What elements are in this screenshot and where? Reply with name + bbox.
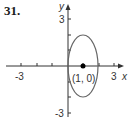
ellipse-graph: -3 3 x y 3 -3 (1, 0)	[0, 0, 129, 121]
center-point	[81, 64, 86, 69]
x-axis-label: x	[121, 71, 128, 82]
x-axis-arrow-icon	[118, 64, 124, 69]
y-axis-label: y	[58, 1, 65, 12]
x-tick-label-3: 3	[111, 71, 117, 82]
y-tick-label-neg3: -3	[55, 108, 64, 119]
y-tick-label-3: 3	[59, 14, 65, 25]
x-tick-label-neg3: -3	[15, 71, 24, 82]
center-point-label: (1, 0)	[72, 73, 95, 84]
y-axis-arrow-icon	[66, 4, 71, 10]
